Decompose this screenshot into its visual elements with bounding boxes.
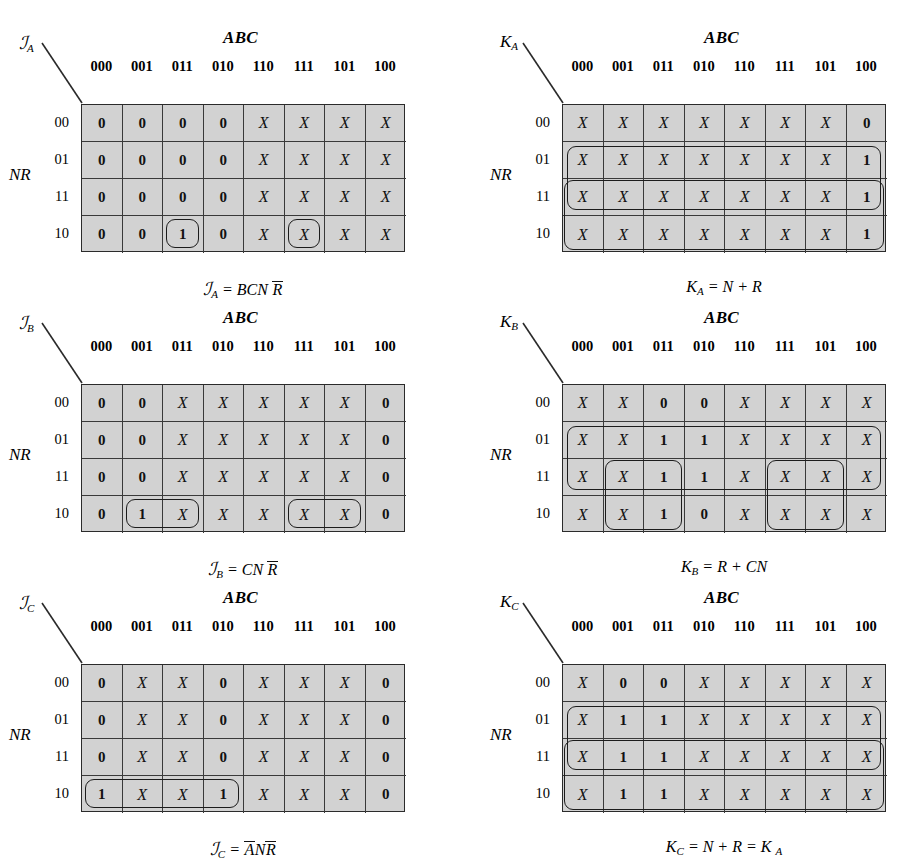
kmap-cell-JA-r0c3[interactable]: 0	[204, 105, 245, 142]
kmap-cell-JC-r3c1[interactable]: X	[123, 776, 164, 813]
kmap-cell-JA-r3c4[interactable]: X	[244, 216, 285, 253]
kmap-cell-JC-r0c2[interactable]: X	[163, 665, 204, 702]
kmap-cell-KB-r1c5[interactable]: X	[766, 422, 807, 459]
kmap-cell-JB-r3c2[interactable]: X	[163, 496, 204, 533]
kmap-cell-JB-r1c1[interactable]: 0	[123, 422, 164, 459]
kmap-cell-JC-r0c6[interactable]: X	[325, 665, 366, 702]
kmap-cell-KB-r0c4[interactable]: X	[725, 385, 766, 422]
kmap-cell-KA-r0c4[interactable]: X	[725, 105, 766, 142]
kmap-cell-KB-r0c5[interactable]: X	[766, 385, 807, 422]
kmap-cell-JC-r2c5[interactable]: X	[285, 739, 326, 776]
kmap-cell-JC-r1c5[interactable]: X	[285, 702, 326, 739]
kmap-cell-JB-r0c6[interactable]: X	[325, 385, 366, 422]
kmap-cell-JA-r2c2[interactable]: 0	[163, 179, 204, 216]
kmap-cell-KA-r0c3[interactable]: X	[685, 105, 726, 142]
kmap-cell-KA-r1c7[interactable]: 1	[847, 142, 888, 179]
kmap-cell-JA-r0c0[interactable]: 0	[82, 105, 123, 142]
kmap-cell-JC-r0c7[interactable]: 0	[366, 665, 407, 702]
kmap-cell-JC-r1c0[interactable]: 0	[82, 702, 123, 739]
kmap-cell-KB-r3c0[interactable]: X	[563, 496, 604, 533]
kmap-cell-JB-r1c3[interactable]: X	[204, 422, 245, 459]
kmap-cell-KB-r2c7[interactable]: X	[847, 459, 888, 496]
kmap-cell-JB-r1c0[interactable]: 0	[82, 422, 123, 459]
kmap-cell-JC-r3c0[interactable]: 1	[82, 776, 123, 813]
kmap-cell-KA-r1c5[interactable]: X	[766, 142, 807, 179]
kmap-cell-KA-r2c2[interactable]: X	[644, 179, 685, 216]
kmap-cell-JC-r1c7[interactable]: 0	[366, 702, 407, 739]
kmap-cell-JC-r1c2[interactable]: X	[163, 702, 204, 739]
kmap-cell-KC-r1c7[interactable]: X	[847, 702, 888, 739]
kmap-cell-JC-r2c6[interactable]: X	[325, 739, 366, 776]
kmap-cell-KB-r2c2[interactable]: 1	[644, 459, 685, 496]
kmap-cell-JB-r3c6[interactable]: X	[325, 496, 366, 533]
kmap-cell-JC-r3c6[interactable]: X	[325, 776, 366, 813]
kmap-cell-JB-r2c5[interactable]: X	[285, 459, 326, 496]
kmap-cell-KC-r0c7[interactable]: X	[847, 665, 888, 702]
kmap-cell-JC-r2c7[interactable]: 0	[366, 739, 407, 776]
kmap-cell-KA-r2c6[interactable]: X	[806, 179, 847, 216]
kmap-cell-JB-r3c3[interactable]: X	[204, 496, 245, 533]
kmap-cell-KB-r0c6[interactable]: X	[806, 385, 847, 422]
kmap-cell-KA-r3c2[interactable]: X	[644, 216, 685, 253]
kmap-cell-JA-r0c2[interactable]: 0	[163, 105, 204, 142]
kmap-cell-JA-r3c5[interactable]: X	[285, 216, 326, 253]
kmap-cell-JA-r1c2[interactable]: 0	[163, 142, 204, 179]
kmap-cell-JB-r2c0[interactable]: 0	[82, 459, 123, 496]
kmap-cell-JA-r2c5[interactable]: X	[285, 179, 326, 216]
kmap-cell-KC-r0c1[interactable]: 0	[604, 665, 645, 702]
kmap-cell-JB-r0c0[interactable]: 0	[82, 385, 123, 422]
kmap-cell-KC-r1c3[interactable]: X	[685, 702, 726, 739]
kmap-cell-KB-r3c2[interactable]: 1	[644, 496, 685, 533]
kmap-cell-KA-r2c4[interactable]: X	[725, 179, 766, 216]
kmap-cell-KA-r3c6[interactable]: X	[806, 216, 847, 253]
kmap-cell-KC-r1c1[interactable]: 1	[604, 702, 645, 739]
kmap-cell-KB-r3c6[interactable]: X	[806, 496, 847, 533]
kmap-cell-JA-r3c2[interactable]: 1	[163, 216, 204, 253]
kmap-cell-KC-r3c0[interactable]: X	[563, 776, 604, 813]
kmap-cell-JA-r0c4[interactable]: X	[244, 105, 285, 142]
kmap-cell-JA-r1c5[interactable]: X	[285, 142, 326, 179]
kmap-cell-KA-r0c7[interactable]: 0	[847, 105, 888, 142]
kmap-cell-KA-r3c7[interactable]: 1	[847, 216, 888, 253]
kmap-cell-JB-r3c5[interactable]: X	[285, 496, 326, 533]
kmap-cell-JA-r2c7[interactable]: X	[366, 179, 407, 216]
kmap-cell-KC-r1c5[interactable]: X	[766, 702, 807, 739]
kmap-cell-KA-r2c0[interactable]: X	[563, 179, 604, 216]
kmap-cell-KC-r3c7[interactable]: X	[847, 776, 888, 813]
kmap-cell-JB-r2c7[interactable]: 0	[366, 459, 407, 496]
kmap-cell-KC-r0c0[interactable]: X	[563, 665, 604, 702]
kmap-cell-JB-r3c4[interactable]: X	[244, 496, 285, 533]
kmap-cell-JA-r1c3[interactable]: 0	[204, 142, 245, 179]
kmap-cell-KA-r0c2[interactable]: X	[644, 105, 685, 142]
kmap-cell-JB-r0c2[interactable]: X	[163, 385, 204, 422]
kmap-cell-JC-r1c1[interactable]: X	[123, 702, 164, 739]
kmap-cell-KB-r2c6[interactable]: X	[806, 459, 847, 496]
kmap-cell-KA-r3c1[interactable]: X	[604, 216, 645, 253]
kmap-cell-KA-r0c6[interactable]: X	[806, 105, 847, 142]
kmap-cell-KA-r1c6[interactable]: X	[806, 142, 847, 179]
kmap-cell-KC-r2c6[interactable]: X	[806, 739, 847, 776]
kmap-cell-KB-r2c5[interactable]: X	[766, 459, 807, 496]
kmap-cell-KA-r2c3[interactable]: X	[685, 179, 726, 216]
kmap-cell-KA-r3c4[interactable]: X	[725, 216, 766, 253]
kmap-cell-JA-r3c3[interactable]: 0	[204, 216, 245, 253]
kmap-cell-KC-r2c5[interactable]: X	[766, 739, 807, 776]
kmap-cell-KC-r0c2[interactable]: 0	[644, 665, 685, 702]
kmap-cell-JC-r1c4[interactable]: X	[244, 702, 285, 739]
kmap-cell-KA-r0c0[interactable]: X	[563, 105, 604, 142]
kmap-cell-KA-r0c1[interactable]: X	[604, 105, 645, 142]
kmap-cell-JC-r2c1[interactable]: X	[123, 739, 164, 776]
kmap-cell-JA-r0c6[interactable]: X	[325, 105, 366, 142]
kmap-cell-JC-r2c2[interactable]: X	[163, 739, 204, 776]
kmap-cell-JA-r1c1[interactable]: 0	[123, 142, 164, 179]
kmap-cell-KC-r2c2[interactable]: 1	[644, 739, 685, 776]
kmap-cell-JA-r0c7[interactable]: X	[366, 105, 407, 142]
kmap-cell-JC-r2c3[interactable]: 0	[204, 739, 245, 776]
kmap-cell-KA-r2c5[interactable]: X	[766, 179, 807, 216]
kmap-cell-JC-r3c4[interactable]: X	[244, 776, 285, 813]
kmap-cell-JA-r2c1[interactable]: 0	[123, 179, 164, 216]
kmap-cell-JB-r2c3[interactable]: X	[204, 459, 245, 496]
kmap-cell-JC-r1c3[interactable]: 0	[204, 702, 245, 739]
kmap-cell-KC-r1c6[interactable]: X	[806, 702, 847, 739]
kmap-cell-KB-r2c0[interactable]: X	[563, 459, 604, 496]
